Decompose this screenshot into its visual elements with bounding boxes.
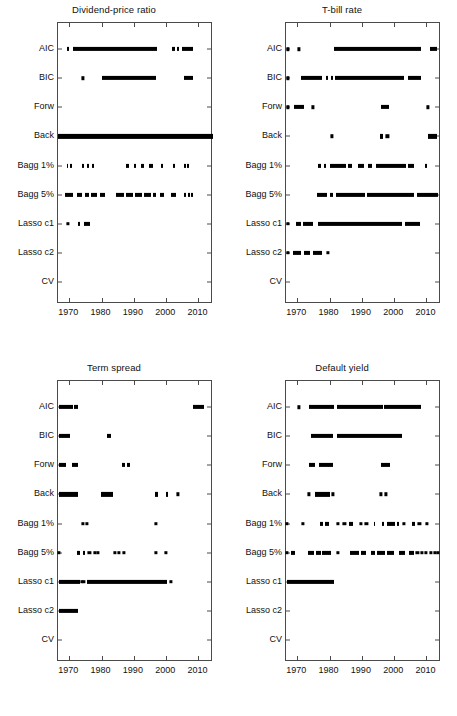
- x-tick-mark: [297, 656, 298, 660]
- y-tick-mark-right: [435, 610, 439, 611]
- data-run-bagg-5-: [291, 551, 295, 555]
- y-tick-mark-right: [207, 165, 211, 166]
- y-tick-label: Forw: [262, 459, 282, 469]
- y-tick-label: Bagg 1%: [17, 518, 54, 528]
- y-tick-label: Lasso c1: [18, 218, 54, 228]
- x-tick-label: 1970: [286, 665, 306, 675]
- y-tick-mark-right: [207, 223, 211, 224]
- data-point-bagg-1-: [336, 522, 339, 526]
- data-run-bagg-5-: [336, 193, 365, 197]
- data-run-bagg-1-: [149, 163, 153, 167]
- data-run-lasso-c1: [287, 580, 334, 584]
- x-tick-label: 1990: [123, 307, 143, 317]
- data-run-bagg-1-: [348, 163, 352, 167]
- data-run-bagg-1-: [368, 163, 371, 167]
- x-tick-label: 1980: [319, 307, 339, 317]
- data-run-bagg-5-: [160, 193, 164, 197]
- data-run-back: [59, 492, 78, 496]
- data-run-bagg-5-: [116, 193, 124, 197]
- data-run-lasso-c1: [78, 222, 80, 226]
- data-run-forw: [72, 463, 78, 467]
- y-tick-mark: [286, 194, 290, 195]
- data-point-bagg-5-: [88, 551, 91, 555]
- y-tick-label: Back: [34, 488, 54, 498]
- data-run-bagg-1-: [374, 521, 376, 525]
- data-run-bic: [335, 76, 403, 80]
- data-run-aic: [337, 405, 383, 409]
- data-run-bagg-1-: [184, 163, 186, 167]
- y-tick-mark-right: [207, 523, 211, 524]
- data-run-bagg-1-: [318, 163, 321, 167]
- data-run-forw: [381, 463, 391, 467]
- data-point-back: [384, 493, 387, 497]
- x-tick-mark-top: [362, 23, 363, 27]
- x-tick-label: 1980: [91, 307, 111, 317]
- data-run-aic: [73, 47, 158, 51]
- data-run-lasso-c2: [313, 251, 323, 255]
- y-tick-mark-right: [207, 494, 211, 495]
- y-tick-label: CV: [269, 276, 282, 286]
- data-run-bagg-5-: [126, 193, 132, 197]
- y-tick-mark: [58, 165, 62, 166]
- y-tick-mark: [286, 610, 290, 611]
- y-tick-mark: [58, 252, 62, 253]
- data-run-bagg-5-: [91, 193, 97, 197]
- data-run-bic: [337, 434, 402, 438]
- data-run-bagg-1-: [397, 521, 400, 525]
- data-run-bagg-5-: [184, 193, 187, 197]
- figure-root: Dividend-price ratioAICBICForwBackBagg 1…: [0, 0, 457, 716]
- data-run-bagg-5-: [188, 193, 190, 197]
- plot-area: [285, 22, 440, 303]
- y-tick-label: Bagg 5%: [245, 189, 282, 199]
- data-run-aic: [430, 47, 437, 51]
- data-run-bagg-5-: [322, 551, 330, 555]
- panel-title: T-bill rate: [228, 4, 456, 15]
- x-tick-mark: [362, 298, 363, 302]
- y-tick-mark-right: [435, 223, 439, 224]
- x-tick-mark-top: [166, 23, 167, 27]
- data-run-aic: [384, 405, 421, 409]
- data-point-lasso-c2: [286, 251, 289, 255]
- data-run-bagg-1-: [134, 163, 137, 167]
- data-run-bagg-5-: [308, 551, 314, 555]
- data-point-forw: [426, 105, 429, 109]
- x-tick-mark-top: [426, 381, 427, 385]
- x-tick-mark: [330, 656, 331, 660]
- chart-panel-2: T-bill rateAICBICForwBackBagg 1%Bagg 5%L…: [228, 0, 456, 358]
- data-run-bagg-5-: [330, 193, 333, 197]
- data-run-bagg-5-: [361, 551, 366, 555]
- data-run-bagg-5-: [191, 193, 193, 197]
- data-run-bic: [301, 76, 322, 80]
- data-point-bagg-1-: [402, 522, 405, 526]
- data-point-bagg-5-: [117, 551, 120, 555]
- data-run-bic: [311, 434, 334, 438]
- x-tick-mark: [69, 656, 70, 660]
- data-point-bagg-1-: [426, 522, 429, 526]
- data-run-bagg-5-: [83, 551, 85, 555]
- data-run-bagg-5-: [399, 551, 405, 555]
- x-tick-mark-top: [102, 23, 103, 27]
- data-run-aic: [177, 47, 179, 51]
- data-run-back: [428, 134, 437, 138]
- x-tick-mark-top: [198, 23, 199, 27]
- data-run-bagg-1-: [325, 521, 329, 525]
- y-tick-mark-right: [435, 465, 439, 466]
- data-run-bic: [107, 434, 111, 438]
- data-run-back: [380, 134, 383, 138]
- y-tick-label: Bagg 5%: [17, 547, 54, 557]
- data-point-back: [307, 493, 310, 497]
- data-run-bagg-1-: [376, 163, 406, 167]
- y-tick-label: BIC: [267, 72, 282, 82]
- y-tick-mark: [58, 223, 62, 224]
- y-tick-label: Bagg 1%: [245, 160, 282, 170]
- y-tick-mark-right: [207, 194, 211, 195]
- data-point-forw: [286, 105, 289, 109]
- x-tick-label: 2000: [155, 307, 175, 317]
- y-tick-mark: [286, 407, 290, 408]
- data-point-bic: [286, 76, 289, 80]
- data-run-aic: [59, 405, 73, 409]
- y-tick-label: Forw: [262, 101, 282, 111]
- y-tick-label: Lasso c2: [246, 247, 282, 257]
- y-tick-label: Lasso c2: [18, 605, 54, 615]
- x-tick-mark: [102, 656, 103, 660]
